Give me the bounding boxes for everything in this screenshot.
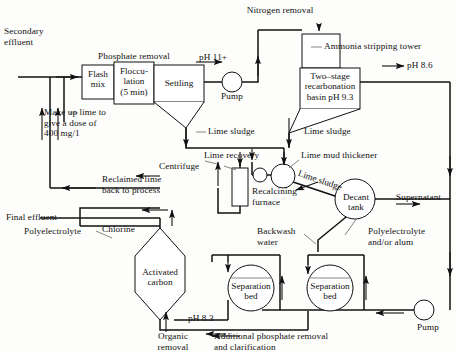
flocculation-label: Floccu- lation (5 min) xyxy=(113,66,155,97)
recalcining-furnace-label: Recalcining furnace xyxy=(252,186,322,207)
ammonia-stripping-tower-label: Ammonia stripping tower xyxy=(324,41,454,52)
pump-2-label: Pump xyxy=(406,322,450,333)
settling-hopper xyxy=(154,102,204,128)
lime-mud-thickener-symbol xyxy=(271,164,295,188)
lime-mud-thickener-label: Lime mud thickener xyxy=(301,150,397,161)
pump-1-label: Pump xyxy=(210,91,254,102)
flash-mix-label: Flash mix xyxy=(82,69,114,90)
stream-label-backwash-water: Backwash water xyxy=(257,226,315,247)
stream-label-lime-sludge-recarb: Lime sludge xyxy=(304,126,370,137)
stream-label-polyelectrolyte-alum: Polyelectrolyte and/or alum xyxy=(368,226,454,247)
separation-bed-2-label: Separation bed xyxy=(305,281,355,302)
stream-label-lime-sludge-settling: Lime sludge xyxy=(208,126,274,137)
stream-label-secondary-effluent: Secondary effluent xyxy=(4,26,64,47)
stream-label-polyelectrolyte-left: Polyelectrolyte xyxy=(24,226,100,237)
separation-bed-1-label: Separation bed xyxy=(226,281,276,302)
centrifuge-box xyxy=(232,168,248,206)
stream-label-lime-recovery: Lime recovery xyxy=(204,150,280,161)
decant-tank-label: Decant tank xyxy=(336,192,376,213)
stream-label-reclaimed-lime: Reclaimed lime back to process xyxy=(102,174,222,195)
section-title-nitrogen-removal: Nitrogen removal xyxy=(230,5,330,16)
stream-label-make-up-lime: Make up lime to give a dose of 400 mg/1 xyxy=(44,107,154,139)
pump-lime-treated-effluent-symbol xyxy=(222,72,242,92)
lime-sludge-pump-symbol xyxy=(253,168,267,182)
process-flow-diagram: Secondary effluent Phosphate removal Fla… xyxy=(0,0,457,353)
activated-carbon-label: Activated carbon xyxy=(135,267,185,288)
centrifuge-label: Centrifuge xyxy=(159,161,211,172)
pump-recycle-return-symbol xyxy=(414,300,434,320)
stream-label-supernatant: Supernatant xyxy=(396,192,457,203)
section-title-phosphate-removal: Phosphate removal xyxy=(84,51,184,62)
ph-label-after-carbon: pH 8.3 xyxy=(188,313,230,324)
settling-label: Settling xyxy=(154,78,204,88)
ph-label-after-settling: pH 11+ xyxy=(199,52,239,63)
ph-label-after-recarbonation: pH 8.6 xyxy=(407,60,451,71)
stream-label-additional-phosphate: Additional phosphate removal and clarifi… xyxy=(214,331,394,352)
stream-label-final-effluent: Final effluent xyxy=(6,212,78,223)
recarbonation-basin-label: Two–stage recarbonation basin pH 9.3 xyxy=(299,71,361,102)
stream-label-organic-removal: Organic removal xyxy=(144,331,202,352)
stream-label-chlorine: Chlorine xyxy=(102,224,154,235)
